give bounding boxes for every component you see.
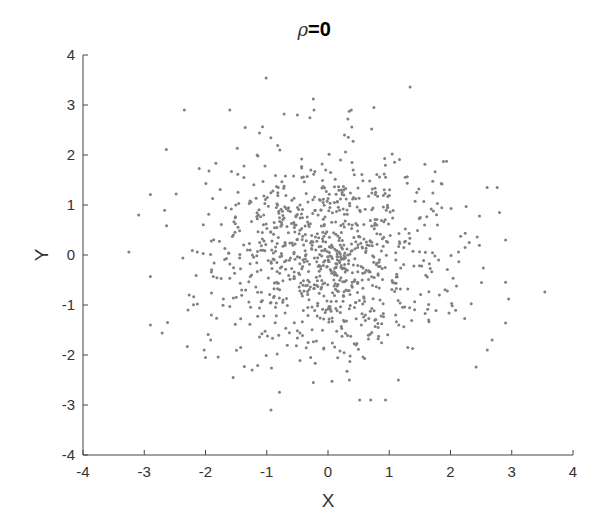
data-point bbox=[330, 221, 333, 224]
data-point bbox=[255, 254, 258, 257]
data-point bbox=[380, 341, 383, 344]
data-point bbox=[296, 329, 299, 332]
data-point bbox=[281, 218, 284, 221]
data-point bbox=[446, 268, 449, 271]
y-tick-label: -1 bbox=[62, 296, 75, 313]
data-point bbox=[166, 321, 169, 324]
data-point bbox=[313, 287, 316, 290]
data-point bbox=[358, 197, 361, 200]
x-axis: -4-3-2-101234 X bbox=[76, 450, 577, 511]
data-point bbox=[367, 337, 370, 340]
data-point bbox=[222, 298, 225, 301]
data-point bbox=[343, 351, 346, 354]
data-point bbox=[340, 327, 343, 330]
data-point bbox=[370, 224, 373, 227]
data-point bbox=[380, 314, 383, 317]
data-point bbox=[340, 231, 343, 234]
data-point bbox=[465, 205, 468, 208]
data-point bbox=[329, 171, 332, 174]
data-point bbox=[315, 340, 318, 343]
data-point bbox=[317, 236, 320, 239]
data-point bbox=[318, 292, 321, 295]
x-tick-label: -2 bbox=[199, 463, 212, 480]
data-point bbox=[375, 232, 378, 235]
data-point bbox=[329, 268, 332, 271]
data-point bbox=[411, 347, 414, 350]
data-point bbox=[264, 165, 267, 168]
data-point bbox=[301, 295, 304, 298]
data-point bbox=[277, 236, 280, 239]
data-point bbox=[356, 246, 359, 249]
data-point bbox=[275, 261, 278, 264]
data-point bbox=[215, 317, 218, 320]
data-point bbox=[450, 207, 453, 210]
data-point bbox=[267, 259, 270, 262]
data-point bbox=[318, 245, 321, 248]
data-point bbox=[351, 223, 354, 226]
data-point bbox=[362, 266, 365, 269]
x-axis-label: X bbox=[322, 490, 335, 511]
data-point bbox=[262, 223, 265, 226]
data-point bbox=[287, 274, 290, 277]
data-point bbox=[297, 272, 300, 275]
data-point bbox=[284, 312, 287, 315]
data-point bbox=[431, 251, 434, 254]
data-point bbox=[275, 226, 278, 229]
data-point bbox=[398, 232, 401, 235]
data-point bbox=[246, 248, 249, 251]
data-point bbox=[286, 225, 289, 228]
data-point bbox=[496, 186, 499, 189]
data-point bbox=[239, 267, 242, 270]
data-point bbox=[362, 316, 365, 319]
data-point bbox=[337, 189, 340, 192]
data-point bbox=[232, 220, 235, 223]
data-point bbox=[210, 292, 213, 295]
data-point bbox=[327, 260, 330, 263]
data-point bbox=[231, 235, 234, 238]
data-point bbox=[339, 311, 342, 314]
data-point bbox=[333, 248, 336, 251]
data-point bbox=[404, 228, 407, 231]
data-point bbox=[414, 200, 417, 203]
data-point bbox=[272, 296, 275, 299]
data-point bbox=[323, 235, 326, 238]
data-point bbox=[450, 254, 453, 257]
x-tick-label: -1 bbox=[260, 463, 273, 480]
data-point bbox=[311, 244, 314, 247]
data-point bbox=[288, 241, 291, 244]
data-point bbox=[351, 249, 354, 252]
data-point bbox=[198, 167, 201, 170]
data-point bbox=[431, 192, 434, 195]
data-point bbox=[300, 267, 303, 270]
data-point bbox=[320, 288, 323, 291]
data-point bbox=[361, 279, 364, 282]
data-point bbox=[382, 312, 385, 315]
data-point bbox=[448, 312, 451, 315]
data-point bbox=[383, 173, 386, 176]
data-point bbox=[348, 289, 351, 292]
data-point bbox=[435, 213, 438, 216]
data-point bbox=[413, 300, 416, 303]
data-point bbox=[237, 226, 240, 229]
data-point bbox=[373, 224, 376, 227]
data-point bbox=[333, 346, 336, 349]
data-point bbox=[264, 243, 267, 246]
data-point bbox=[434, 170, 437, 173]
data-point bbox=[289, 210, 292, 213]
data-point bbox=[302, 244, 305, 247]
data-point bbox=[375, 218, 378, 221]
data-point bbox=[306, 290, 309, 293]
data-point bbox=[346, 213, 349, 216]
data-point bbox=[337, 283, 340, 286]
data-point bbox=[328, 206, 331, 209]
data-point bbox=[301, 320, 304, 323]
data-point bbox=[251, 369, 254, 372]
data-point bbox=[375, 285, 378, 288]
data-point bbox=[338, 239, 341, 242]
data-point bbox=[402, 325, 405, 328]
data-point bbox=[389, 210, 392, 213]
data-point bbox=[419, 293, 422, 296]
data-point bbox=[348, 379, 351, 382]
data-point bbox=[322, 295, 325, 298]
data-point bbox=[208, 170, 211, 173]
